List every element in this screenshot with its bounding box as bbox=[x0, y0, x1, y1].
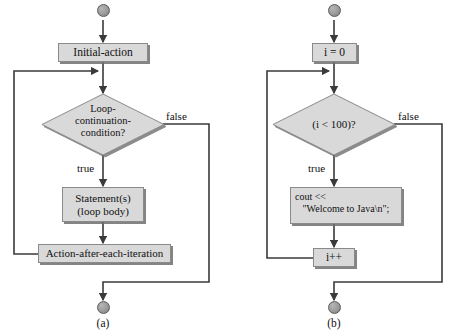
panel-a-statements-box: Statement(s) (loop body) bbox=[62, 187, 144, 222]
panel-a-statements-line-2: (loop body) bbox=[77, 205, 129, 218]
panel-b-true-label: true bbox=[308, 162, 325, 174]
panel-a-end-terminal bbox=[97, 301, 110, 314]
panel-b-end-terminal bbox=[328, 301, 341, 314]
panel-a-condition-text: Loop- continuation- condition? bbox=[43, 103, 163, 139]
panel-a-caption: (a) bbox=[73, 317, 133, 329]
flowchart-figure: Initial-action Loop- continuation- condi… bbox=[0, 0, 460, 333]
panel-a-initial-action-box: Initial-action bbox=[58, 43, 148, 62]
panel-b-initial-action-box: i = 0 bbox=[312, 43, 357, 62]
panel-b-body-box: cout << "Welcome to Java\n"; bbox=[290, 187, 402, 224]
panel-a-action-after-box: Action-after-each-iteration bbox=[38, 244, 171, 263]
panel-b-condition-text: (i < 100)? bbox=[274, 118, 394, 130]
panel-a-statements-line-1: Statement(s) bbox=[75, 192, 131, 205]
panel-b-false-label: false bbox=[398, 110, 419, 122]
panel-a-true-label: true bbox=[77, 162, 94, 174]
panel-b-body-line-2: "Welcome to Java\n"; bbox=[295, 203, 389, 215]
panel-a-false-label: false bbox=[166, 110, 187, 122]
panel-b-caption: (b) bbox=[304, 317, 364, 329]
panel-b-body-line-1: cout << bbox=[295, 191, 326, 203]
panel-b-start-terminal bbox=[328, 4, 341, 17]
panel-a-condition-line-1: Loop- bbox=[43, 103, 163, 115]
panel-a-condition-line-2: continuation- bbox=[43, 115, 163, 127]
panel-a-start-terminal bbox=[97, 4, 110, 17]
panel-b-increment-box: i++ bbox=[313, 248, 355, 267]
panel-a-condition-line-3: condition? bbox=[43, 127, 163, 139]
